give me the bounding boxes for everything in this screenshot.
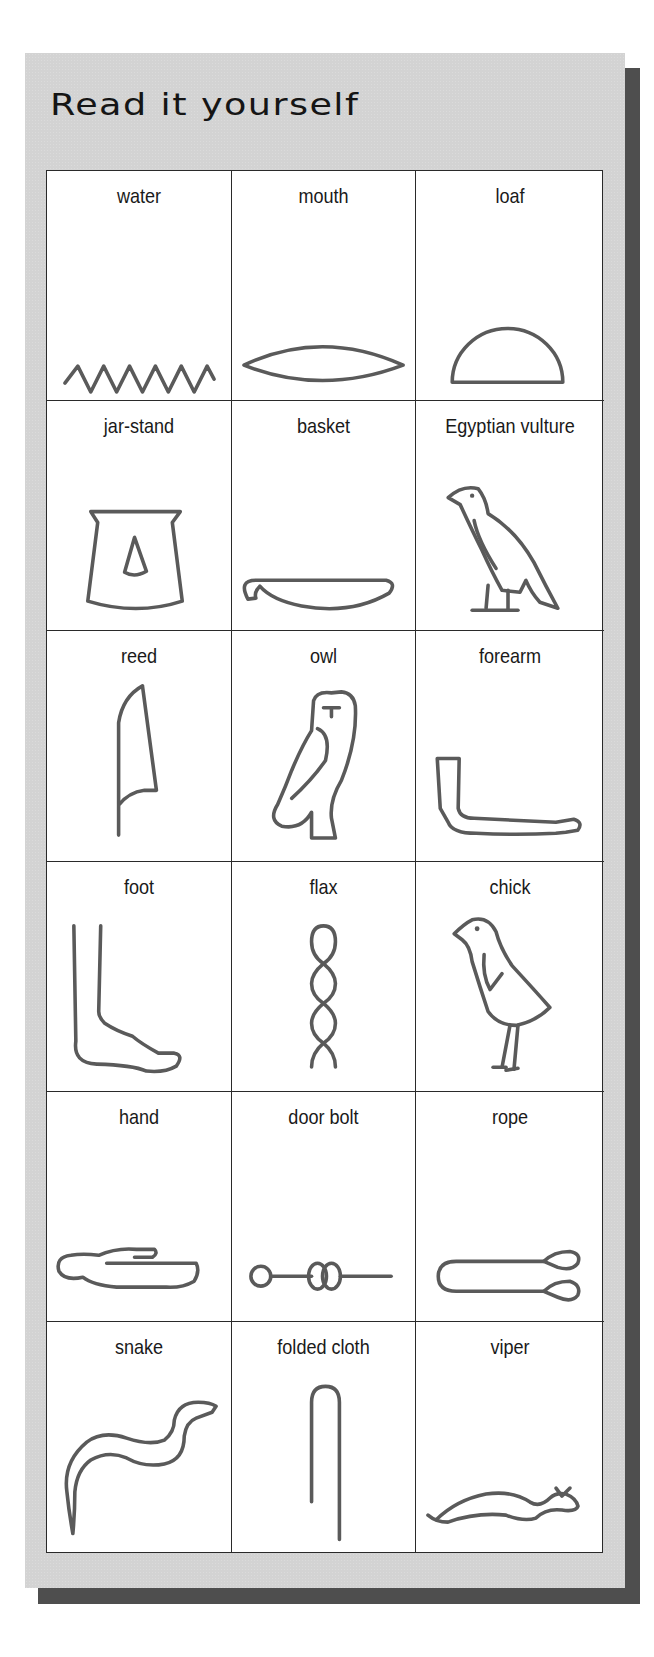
grid-cell-reed: reed [47,631,232,861]
rope-icon [416,1092,604,1321]
grid-cell-water: water [47,171,232,401]
grid-cell-door-bolt: door bolt [232,1092,416,1322]
panel-title: Read it yourself [50,86,359,122]
mouth-icon [232,171,415,400]
grid-cell-loaf: loaf [416,171,604,401]
grid-cell-snake: snake [47,1322,232,1552]
hand-icon [47,1092,231,1321]
jar-stand-icon [47,401,231,630]
folded-cloth-icon [232,1322,415,1552]
water-icon [47,171,231,400]
flax-icon [232,862,415,1091]
viper-icon [416,1322,604,1552]
cropped-text-fragment [0,0,654,6]
grid-cell-jar-stand: jar-stand [47,401,232,631]
grid-cell-owl: owl [232,631,416,861]
grid-cell-viper: viper [416,1322,604,1552]
reed-icon [47,631,231,860]
grid-cell-foot: foot [47,862,232,1092]
grid-cell-mouth: mouth [232,171,416,401]
snake-icon [47,1322,231,1552]
basket-icon [232,401,415,630]
grid-cell-basket: basket [232,401,416,631]
grid-cell-flax: flax [232,862,416,1092]
grid-cell-chick: chick [416,862,604,1092]
vulture-icon [416,401,604,630]
foot-icon [47,862,231,1091]
grid-cell-egyptian-vulture: Egyptian vulture [416,401,604,631]
grid-cell-forearm: forearm [416,631,604,861]
door-bolt-icon [232,1092,415,1321]
grid-cell-hand: hand [47,1092,232,1322]
owl-icon [232,631,415,860]
grid-cell-folded-cloth: folded cloth [232,1322,416,1552]
loaf-icon [416,171,604,400]
chick-icon [416,862,604,1091]
grid-cell-rope: rope [416,1092,604,1322]
forearm-icon [416,631,604,860]
hieroglyph-grid: water mouth loaf jar-stand basket Eg [46,170,603,1553]
